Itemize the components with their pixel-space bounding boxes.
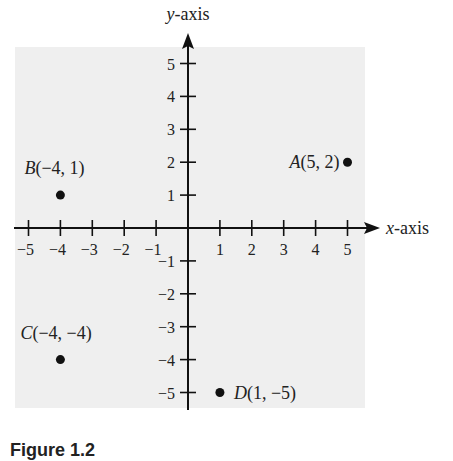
point-label-a: A(5, 2): [289, 152, 340, 173]
y-tick-label: 3: [167, 121, 175, 138]
point-label-c: C(−4, −4): [20, 323, 91, 344]
y-tick-label: −1: [158, 253, 175, 270]
x-tick-label: 2: [248, 241, 256, 258]
x-tick-label: −3: [81, 241, 98, 258]
y-tick-label: 4: [167, 88, 175, 105]
point-d: [215, 388, 224, 397]
point-label-d: D(1, −5): [233, 383, 296, 404]
y-tick-label: −5: [158, 385, 175, 402]
point-b: [56, 191, 65, 200]
point-a: [343, 158, 352, 167]
y-tick-label: 2: [167, 154, 175, 171]
x-tick-label: 3: [280, 241, 288, 258]
y-tick-label: −4: [158, 352, 175, 369]
x-tick-label: 1: [216, 241, 224, 258]
x-axis-label: x-axis: [385, 218, 429, 238]
point-label-b: B(−4, 1): [24, 158, 84, 179]
x-tick-label: −2: [113, 241, 130, 258]
x-tick-label: 4: [312, 241, 320, 258]
x-tick-label: −4: [49, 241, 66, 258]
point-c: [56, 355, 65, 364]
x-tick-label: 5: [344, 241, 352, 258]
figure-caption: Figure 1.2: [10, 440, 95, 461]
y-tick-label: 5: [167, 56, 175, 73]
y-tick-label: −2: [158, 286, 175, 303]
x-tick-label: −5: [17, 241, 34, 258]
y-axis-label: y-axis: [165, 4, 210, 24]
y-tick-label: 1: [167, 187, 175, 204]
y-tick-label: −3: [158, 319, 175, 336]
